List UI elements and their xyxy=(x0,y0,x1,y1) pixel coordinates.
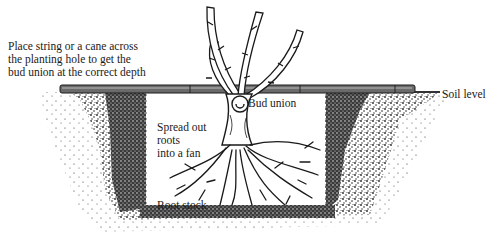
soil-level-label: Soil level xyxy=(442,88,486,101)
illustration xyxy=(0,0,497,240)
instruction-line-1: Place string or a cane across xyxy=(8,40,146,53)
instruction-line-2: the planting hole to get the xyxy=(8,53,146,66)
spread-roots-line-2: roots xyxy=(157,134,207,147)
instruction-label: Place string or a cane across the planti… xyxy=(8,40,146,79)
rose-stems xyxy=(206,7,303,98)
spread-roots-label: Spread out roots into a fan xyxy=(157,121,207,160)
spread-roots-line-1: Spread out xyxy=(157,121,207,134)
root-stock-label: Root stock xyxy=(157,199,207,212)
bud-union-marker xyxy=(232,96,248,112)
bud-union-label: Bud union xyxy=(248,97,296,110)
spread-roots-line-3: into a fan xyxy=(157,147,207,160)
instruction-line-3: bud union at the correct depth xyxy=(8,66,146,79)
rose-planting-diagram: Place string or a cane across the planti… xyxy=(0,0,497,240)
